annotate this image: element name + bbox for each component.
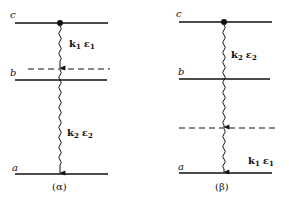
photon-wavy-arrow-1 <box>223 25 226 127</box>
transition-1-label: k2ε2 <box>231 49 257 62</box>
panel-caption: (α) <box>52 181 67 192</box>
transition-2-label: k2ε2 <box>67 127 93 140</box>
panel-beta: c b a k2ε2 k1ε1 (β) <box>176 8 276 192</box>
level-c-label: c <box>176 8 182 19</box>
transition-1-label: k1ε1 <box>69 38 95 51</box>
initial-state-dot <box>221 19 227 25</box>
energy-level-diagram: c b a k1ε1 k2ε2 (α) c b a k2ε2 k1ε1 <box>0 0 289 201</box>
level-a-label: a <box>12 162 18 173</box>
panel-alpha: c b a k1ε1 k2ε2 (α) <box>10 9 110 192</box>
transition-2-label: k1ε1 <box>248 155 274 168</box>
photon-wavy-arrow-2 <box>59 70 62 173</box>
level-b-label: b <box>10 67 16 78</box>
level-a-label: a <box>178 161 184 172</box>
level-b-label: b <box>178 66 184 77</box>
photon-wavy-arrow-2 <box>223 129 226 172</box>
level-c-label: c <box>10 9 16 20</box>
panel-caption: (β) <box>215 181 229 192</box>
initial-state-dot <box>57 20 63 26</box>
photon-wavy-arrow-1 <box>59 26 62 68</box>
